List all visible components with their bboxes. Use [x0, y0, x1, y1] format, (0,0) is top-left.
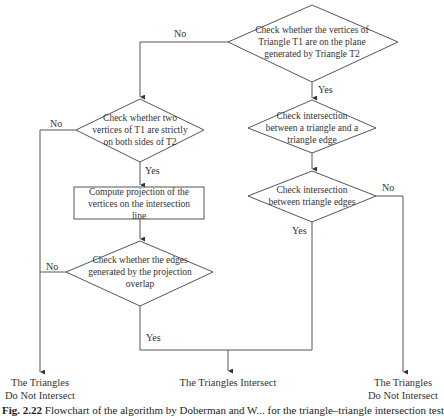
text-line: Check intersection: [258, 184, 366, 196]
decision-triangle-edge-text: Check intersection between a triangle an…: [258, 110, 366, 146]
decision-coplanar-text: Check whether the vertices of Triangle T…: [240, 24, 384, 60]
decision-two-vertices-text: Check whether two vertices of T1 are str…: [86, 112, 194, 148]
text-line: Compute projection of the: [74, 186, 204, 198]
text-line: Check whether the vertices of: [240, 24, 384, 36]
text-line: generated by the projection: [78, 266, 202, 278]
label-two-vertices-yes: Yes: [145, 165, 160, 176]
edge-two-vertices-no: [40, 130, 76, 372]
text-line: The Triangles Intersect: [168, 376, 288, 389]
text-line: The Triangles: [0, 376, 80, 389]
decision-edges-overlap-text: Check whether the edges generated by the…: [78, 254, 202, 290]
figure-caption: Fig. 2.22 Flowchart of the algorithm by …: [2, 404, 436, 416]
process-projection-text: Compute projection of the vertices on th…: [74, 186, 204, 222]
edge-coplanar-no: [140, 42, 228, 97]
label-overlap-yes: Yes: [146, 332, 161, 343]
text-line: Check whether the edges: [78, 254, 202, 266]
text-line: line: [74, 210, 204, 222]
terminal-intersect: The Triangles Intersect: [168, 376, 288, 389]
text-line: Do Not Intersect: [0, 389, 80, 402]
caption-text: Flowchart of the algorithm by Doberman a…: [45, 404, 444, 416]
label-coplanar-no: No: [174, 28, 186, 39]
text-line: between triangle edges: [258, 196, 366, 208]
text-line: vertices on the intersection: [74, 198, 204, 210]
terminal-left-no-intersect: The Triangles Do Not Intersect: [0, 376, 80, 402]
terminal-right-no-intersect: The Triangles Do Not Intersect: [362, 376, 444, 402]
label-tri-edges-yes: Yes: [292, 225, 307, 236]
text-line: Do Not Intersect: [362, 389, 444, 402]
text-line: Check intersection: [258, 110, 366, 122]
edge-tri-edges-no: [376, 196, 403, 372]
text-line: generated by Triangle T2: [240, 48, 384, 60]
text-line: The Triangles: [362, 376, 444, 389]
edge-overlap-yes: [140, 306, 312, 350]
text-line: vertices of T1 are strictly: [86, 124, 194, 136]
text-line: between a triangle and a: [258, 122, 366, 134]
text-line: overlap: [78, 278, 202, 290]
decision-triangle-edges-text: Check intersection between triangle edge…: [258, 184, 366, 208]
label-tri-edges-no: No: [382, 182, 394, 193]
label-two-vertices-no: No: [50, 118, 62, 129]
text-line: on both sides of T2: [86, 136, 194, 148]
text-line: triangle edge: [258, 134, 366, 146]
label-coplanar-yes: Yes: [318, 84, 333, 95]
caption-label: Fig. 2.22: [2, 404, 42, 416]
label-overlap-no: No: [46, 261, 58, 272]
text-line: Triangle T1 are on the plane: [240, 36, 384, 48]
text-line: Check whether two: [86, 112, 194, 124]
